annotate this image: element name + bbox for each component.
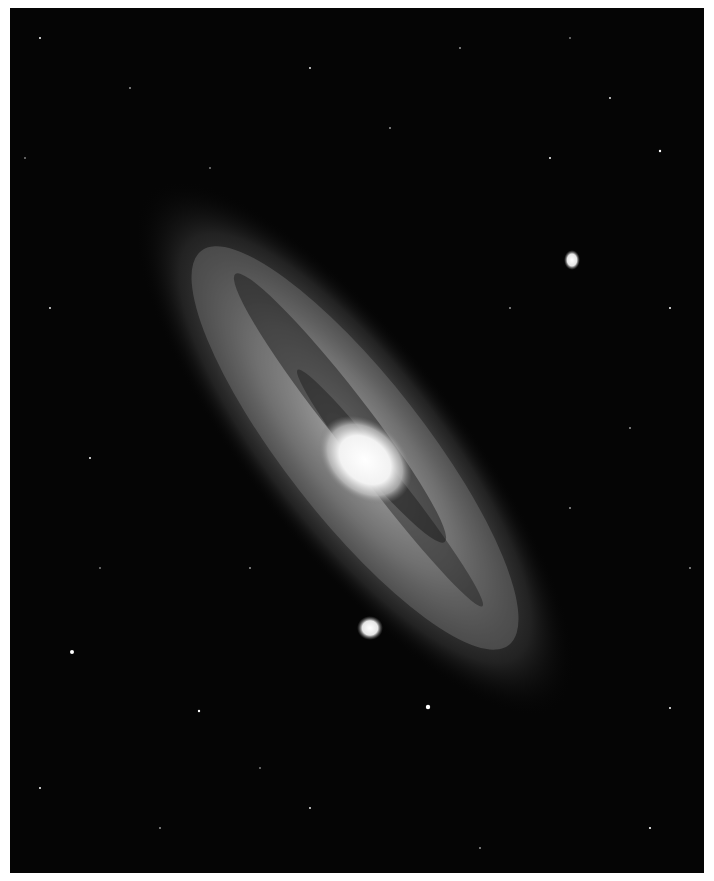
galaxy-illustration bbox=[10, 8, 704, 873]
galaxy-photograph bbox=[10, 8, 704, 873]
satellite-galaxy-upper-right bbox=[564, 250, 580, 270]
satellite-galaxy-lower-left bbox=[357, 616, 383, 640]
